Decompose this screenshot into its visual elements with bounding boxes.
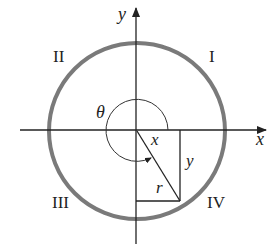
quadrant-IV-label: IV — [207, 193, 226, 212]
y-axis-label: y — [116, 4, 126, 24]
quadrant-III-label: III — [52, 193, 69, 212]
quadrant-I-label: I — [209, 47, 215, 66]
x-axis-label: x — [255, 129, 264, 149]
unit-circle-diagram: y x II I III IV θ x y r — [0, 0, 280, 251]
x-leg-label: x — [150, 130, 159, 149]
y-leg-label: y — [184, 151, 194, 170]
theta-label: θ — [96, 102, 105, 122]
quadrant-II-label: II — [53, 47, 65, 66]
r-label: r — [156, 178, 163, 197]
